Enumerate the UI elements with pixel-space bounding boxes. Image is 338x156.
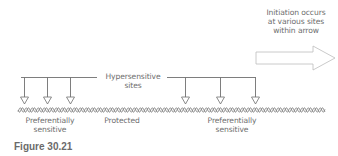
dna-strand [18, 108, 325, 112]
left-arrowheads [21, 97, 75, 104]
hypersensitive-label-line1: Hypersensitive [100, 72, 166, 81]
left-region-label: Preferentially sensitive [18, 116, 82, 134]
right-hypersensitive-bracket [167, 78, 256, 98]
down-arrow-icon [21, 97, 29, 104]
right-region-label: Preferentially sensitive [200, 116, 264, 134]
protected-region-label: Protected [100, 116, 144, 125]
down-arrow-icon [217, 97, 225, 104]
right-region-label-line2: sensitive [200, 125, 264, 134]
down-arrow-icon [252, 97, 260, 104]
initiation-label: Initiation occurs at various sites withi… [256, 8, 336, 35]
down-arrow-icon [44, 97, 52, 104]
initiation-label-line1: Initiation occurs [256, 8, 336, 17]
hypersensitive-label: Hypersensitive sites [100, 72, 166, 90]
left-region-label-line1: Preferentially [18, 116, 82, 125]
figure-caption: Figure 30.21 [14, 141, 72, 152]
down-arrow-icon [67, 97, 75, 104]
hypersensitive-label-line2: sites [100, 81, 166, 90]
initiation-label-line3: within arrow [256, 26, 336, 35]
initiation-arrow-icon [256, 46, 335, 70]
protected-region-label-text: Protected [100, 116, 144, 125]
down-arrow-icon [182, 97, 190, 104]
right-region-label-line1: Preferentially [200, 116, 264, 125]
initiation-label-line2: at various sites [256, 17, 336, 26]
left-region-label-line2: sensitive [18, 125, 82, 134]
right-arrowheads [182, 97, 260, 104]
left-hypersensitive-bracket [21, 78, 97, 98]
